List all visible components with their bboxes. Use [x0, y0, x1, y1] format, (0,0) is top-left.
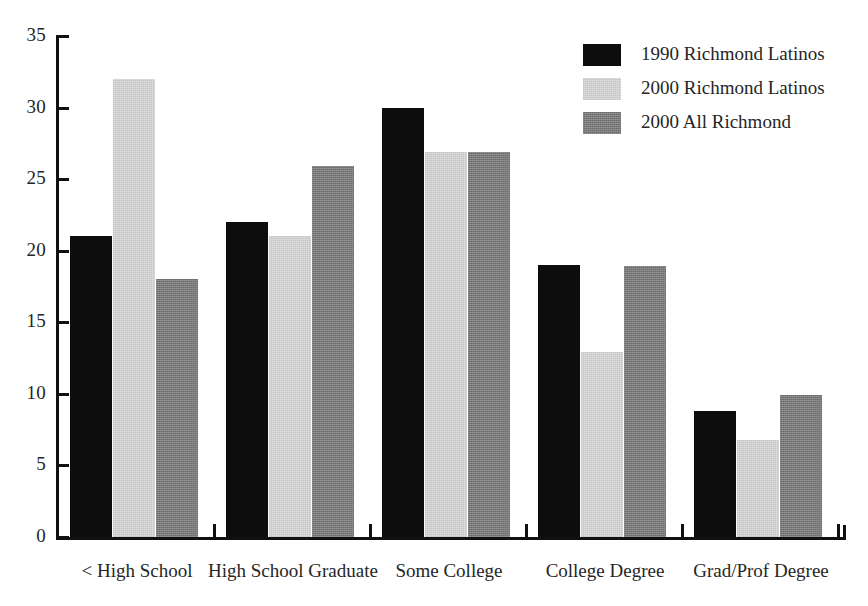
legend-label: 2000 Richmond Latinos	[641, 74, 825, 101]
bar	[226, 222, 268, 537]
bar	[624, 266, 666, 537]
bar	[425, 152, 467, 537]
bar	[737, 440, 779, 537]
y-axis-tick-label: 35	[2, 25, 46, 44]
y-axis-tick	[56, 321, 69, 324]
x-axis-right-cap	[843, 525, 846, 540]
x-axis-label: Grad/Prof Degree	[661, 561, 861, 581]
y-axis-tick	[56, 393, 69, 396]
bar	[269, 236, 311, 537]
y-axis-tick-label: 5	[2, 454, 46, 473]
y-axis-tick	[56, 178, 69, 181]
legend-item[interactable]: 2000 All Richmond	[583, 108, 863, 142]
x-axis-tick	[525, 524, 528, 538]
y-axis-tick	[56, 536, 69, 539]
bar	[468, 152, 510, 537]
legend-swatch	[583, 44, 621, 66]
legend-swatch	[583, 112, 621, 134]
bar	[156, 279, 198, 537]
bar	[538, 265, 580, 537]
legend-item[interactable]: 2000 Richmond Latinos	[583, 74, 863, 108]
x-axis-tick	[369, 524, 372, 538]
y-axis-tick-label: 25	[2, 168, 46, 187]
x-axis-line	[56, 537, 846, 540]
legend-item[interactable]: 1990 Richmond Latinos	[583, 40, 863, 74]
bar	[382, 108, 424, 537]
legend: 1990 Richmond Latinos2000 Richmond Latin…	[583, 40, 863, 142]
y-axis-tick-label: 20	[2, 240, 46, 259]
y-axis-tick-label: 30	[2, 97, 46, 116]
legend-swatch	[583, 78, 621, 100]
bar	[581, 352, 623, 537]
bar	[113, 79, 155, 537]
legend-label: 1990 Richmond Latinos	[641, 40, 825, 67]
x-axis-tick	[837, 524, 840, 538]
y-axis-tick-label: 0	[2, 526, 46, 545]
bar	[70, 236, 112, 537]
bar	[694, 411, 736, 537]
y-axis-tick	[56, 464, 69, 467]
y-axis-tick	[56, 250, 69, 253]
y-axis-tick	[56, 35, 69, 38]
bar	[312, 166, 354, 537]
x-axis-tick	[213, 524, 216, 538]
y-axis-tick-label: 10	[2, 383, 46, 402]
bar	[780, 395, 822, 537]
bar-chart: 35302520151050 < High SchoolHigh School …	[0, 0, 868, 606]
legend-label: 2000 All Richmond	[641, 108, 791, 135]
y-axis-tick	[56, 107, 69, 110]
y-axis-tick-label: 15	[2, 311, 46, 330]
x-axis-tick	[681, 524, 684, 538]
